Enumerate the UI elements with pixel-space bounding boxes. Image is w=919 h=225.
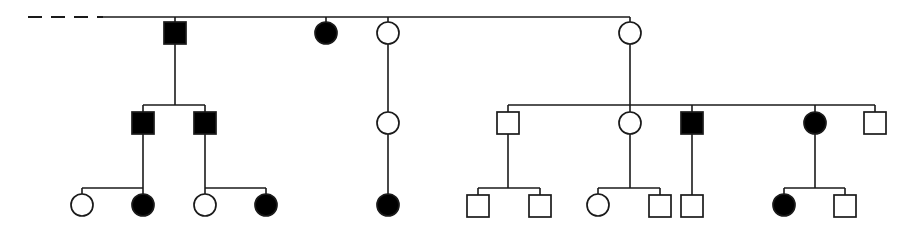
symbol-female-unaffected-III-8[interactable]	[587, 194, 609, 216]
generation-2-symbols	[132, 112, 886, 134]
generation-1-symbols	[164, 22, 641, 44]
symbol-male-unaffected-III-6[interactable]	[467, 195, 489, 217]
symbol-female-unaffected-I-4[interactable]	[619, 22, 641, 44]
symbol-male-affected-II-6[interactable]	[681, 112, 703, 134]
symbol-female-affected-II-7[interactable]	[804, 112, 826, 134]
symbol-male-unaffected-III-12[interactable]	[834, 195, 856, 217]
symbol-male-unaffected-II-4[interactable]	[497, 112, 519, 134]
symbol-male-unaffected-III-7[interactable]	[529, 195, 551, 217]
symbol-female-affected-III-11[interactable]	[773, 194, 795, 216]
symbol-female-affected-III-5[interactable]	[377, 194, 399, 216]
symbol-male-unaffected-III-9[interactable]	[649, 195, 671, 217]
symbol-male-affected-II-1[interactable]	[132, 112, 154, 134]
symbol-female-affected-III-2[interactable]	[132, 194, 154, 216]
generation-3-symbols	[71, 194, 856, 217]
symbol-male-affected-II-2[interactable]	[194, 112, 216, 134]
pedigree-chart	[0, 0, 919, 225]
symbol-male-affected-I-1[interactable]	[164, 22, 186, 44]
pedigree-canvas	[0, 0, 919, 225]
symbol-female-unaffected-II-3[interactable]	[377, 112, 399, 134]
connector-lines	[28, 17, 875, 195]
symbol-female-affected-III-4[interactable]	[255, 194, 277, 216]
symbol-female-unaffected-III-1[interactable]	[71, 194, 93, 216]
symbol-male-unaffected-II-8[interactable]	[864, 112, 886, 134]
symbol-female-unaffected-I-3[interactable]	[377, 22, 399, 44]
symbol-female-unaffected-III-3[interactable]	[194, 194, 216, 216]
symbol-female-unaffected-II-5[interactable]	[619, 112, 641, 134]
symbol-male-unaffected-III-10[interactable]	[681, 195, 703, 217]
symbol-female-affected-I-2[interactable]	[315, 22, 337, 44]
